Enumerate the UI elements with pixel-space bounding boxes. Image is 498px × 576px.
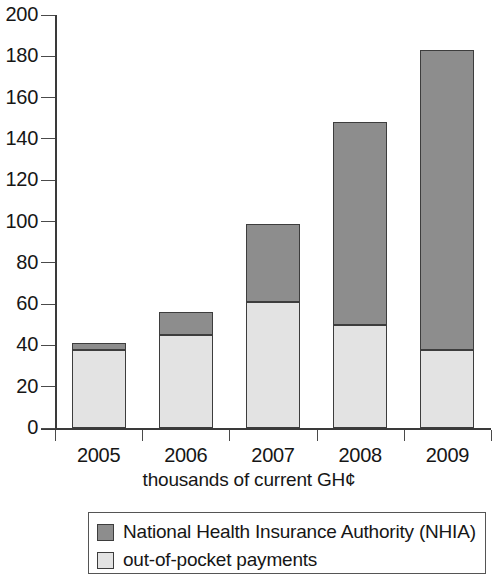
- y-tick-label: 100: [0, 211, 38, 231]
- x-axis-line: [41, 428, 491, 430]
- bar-segment-nhia: [333, 122, 387, 324]
- legend-item-out-of-pocket: out-of-pocket payments: [97, 546, 485, 574]
- x-tick-label: 2008: [310, 443, 410, 467]
- bar-segment-nhia: [246, 224, 300, 302]
- y-tick-label: 40: [0, 334, 38, 354]
- bar-group: [420, 15, 474, 428]
- y-tick-mark: [41, 345, 55, 346]
- x-tick-label: 2007: [223, 443, 323, 467]
- x-tick-label: 2009: [397, 443, 497, 467]
- bar-group: [159, 15, 213, 428]
- y-tick-mark: [41, 138, 55, 139]
- bar-segment-out-of-pocket: [72, 350, 126, 428]
- y-tick-label: 120: [0, 169, 38, 189]
- x-tick-mark: [55, 430, 56, 441]
- x-axis-title: thousands of current GH¢: [0, 468, 498, 492]
- legend-label-nhia: National Health Insurance Authority (NHI…: [123, 521, 476, 543]
- y-tick-label: 20: [0, 376, 38, 396]
- bar-segment-nhia: [420, 50, 474, 349]
- y-tick-label: 0: [0, 417, 38, 437]
- y-tick-mark: [41, 428, 55, 429]
- y-tick-mark: [41, 304, 55, 305]
- bar-segment-nhia: [72, 343, 126, 349]
- bar-segment-out-of-pocket: [420, 350, 474, 428]
- y-tick-mark: [41, 56, 55, 57]
- bar-segment-nhia: [159, 312, 213, 335]
- y-tick-mark: [41, 221, 55, 222]
- x-tick-mark: [491, 430, 492, 441]
- y-tick-label: 60: [0, 293, 38, 313]
- y-tick-label: 180: [0, 45, 38, 65]
- y-tick-label: 80: [0, 252, 38, 272]
- y-tick-mark: [41, 386, 55, 387]
- x-tick-mark: [142, 430, 143, 441]
- x-tick-mark: [317, 430, 318, 441]
- stacked-bar-chart: 020406080100120140160180200 200520062007…: [0, 0, 498, 576]
- legend-swatch-nhia: [97, 524, 114, 541]
- y-tick-mark: [41, 15, 55, 16]
- y-tick-label: 140: [0, 128, 38, 148]
- y-tick-label: 200: [0, 4, 38, 24]
- bar-group: [246, 15, 300, 428]
- x-tick-mark: [404, 430, 405, 441]
- chart-legend: National Health Insurance Authority (NHI…: [88, 512, 486, 574]
- legend-label-out-of-pocket: out-of-pocket payments: [123, 549, 317, 571]
- x-tick-mark: [229, 430, 230, 441]
- bar-segment-out-of-pocket: [333, 325, 387, 428]
- bar-group: [72, 15, 126, 428]
- y-tick-mark: [41, 262, 55, 263]
- plot-area: [55, 15, 491, 428]
- bar-group: [333, 15, 387, 428]
- bar-segment-out-of-pocket: [246, 302, 300, 428]
- legend-item-nhia: National Health Insurance Authority (NHI…: [97, 518, 485, 546]
- y-tick-mark: [41, 180, 55, 181]
- legend-swatch-out-of-pocket: [97, 552, 114, 569]
- x-tick-label: 2006: [136, 443, 236, 467]
- bar-segment-out-of-pocket: [159, 335, 213, 428]
- y-tick-mark: [41, 97, 55, 98]
- x-tick-label: 2005: [49, 443, 149, 467]
- y-tick-label: 160: [0, 87, 38, 107]
